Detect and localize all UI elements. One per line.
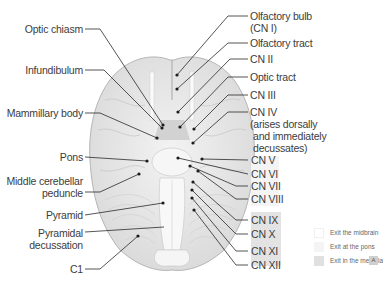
label-middle-cerebellar-peduncle: Middle cerebellar	[6, 175, 83, 187]
label-cn-ii: CN II	[250, 53, 273, 65]
label-cn-x: CN X	[251, 228, 275, 240]
label-infundibulum: Infundibulum	[25, 64, 83, 76]
label-olfactory-bulb-cn-i: (CN I)	[250, 22, 277, 34]
label-pyramid: Pyramid	[46, 209, 83, 221]
legend-label-midbrain: Exit the midbrain	[330, 228, 378, 238]
label-pyramidal-decussation-2: decussation	[29, 239, 83, 251]
label-optic-chiasm: Optic chiasm	[25, 23, 83, 35]
label-cn-xii: CN XII	[251, 259, 281, 271]
swatch-midbrain	[314, 228, 324, 238]
label-cn-ix: CN IX	[251, 214, 278, 226]
legend-item-medulla: Exit in the medulla A	[314, 256, 374, 267]
label-cn-iv-note-3: decussates)	[253, 142, 307, 154]
label-cn-iv-note-1: (arises dorsally	[250, 118, 317, 130]
swatch-medulla	[314, 256, 324, 266]
label-cn-iv: CN IV	[250, 106, 277, 118]
label-cn-iii: CN III	[250, 89, 276, 101]
label-middle-cerebellar-peduncle-2: peduncle	[42, 187, 83, 199]
figure-badge-icon: A	[369, 256, 378, 265]
label-optic-tract: Optic tract	[250, 71, 296, 83]
label-pons: Pons	[60, 151, 83, 163]
label-mammillary-body: Mammillary body	[7, 107, 83, 119]
legend-item-midbrain: Exit the midbrain	[314, 228, 374, 239]
label-cn-iv-note-2: and immediately	[253, 130, 326, 142]
label-olfactory-bulb: Olfactory bulb	[250, 10, 312, 22]
label-olfactory-tract: Olfactory tract	[250, 37, 312, 49]
label-cn-xi: CN XI	[251, 245, 278, 257]
label-c1: C1	[70, 263, 83, 275]
label-cn-v: CN V	[251, 154, 275, 166]
swatch-pons	[314, 242, 324, 252]
legend-label-pons: Exit at the pons	[330, 242, 375, 252]
legend-item-pons: Exit at the pons	[314, 242, 374, 253]
label-cn-vii: CN VII	[251, 180, 281, 192]
label-cn-viii: CN VIII	[251, 193, 283, 205]
label-cn-vi: CN VI	[251, 168, 278, 180]
label-pyramidal-decussation: Pyramidal	[38, 227, 83, 239]
